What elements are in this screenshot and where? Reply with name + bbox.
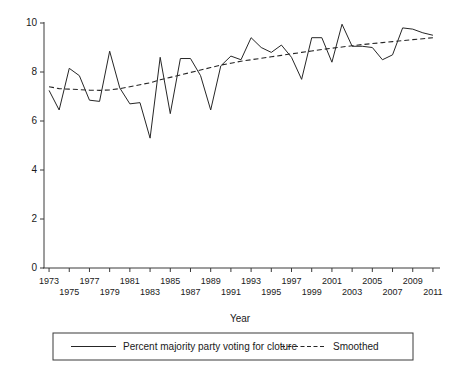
x-tick-label: 1977 <box>79 276 99 286</box>
legend-label-cloture: Percent majority party voting for clotur… <box>123 341 297 352</box>
x-tick-label: 1999 <box>302 287 322 297</box>
x-tick-label: 2009 <box>403 276 423 286</box>
x-tick-label: 1979 <box>100 287 120 297</box>
x-tick-label: 1991 <box>221 287 241 297</box>
x-tick-label: 2003 <box>342 287 362 297</box>
y-tick-label: 8 <box>31 66 37 77</box>
x-tick-label: 2005 <box>362 276 382 286</box>
x-tick-label: 1973 <box>39 276 59 286</box>
x-tick-label: 2001 <box>322 276 342 286</box>
y-tick-label: 4 <box>31 164 37 175</box>
y-tick-label: 2 <box>31 213 37 224</box>
x-tick-label: 2007 <box>383 287 403 297</box>
x-tick-label: 1989 <box>201 276 221 286</box>
x-tick-label: 1981 <box>120 276 140 286</box>
y-tick-label: 10 <box>26 17 38 28</box>
x-tick-label: 1985 <box>160 276 180 286</box>
x-tick-label: 1983 <box>140 287 160 297</box>
x-tick-label: 2011 <box>423 287 442 297</box>
chart-figure: 0246810 19731975197719791981198319851987… <box>0 0 466 372</box>
y-tick-label: 6 <box>31 115 37 126</box>
line-chart: 0246810 19731975197719791981198319851987… <box>0 0 466 372</box>
chart-legend: Percent majority party voting for clotur… <box>53 333 413 360</box>
x-tick-label: 1993 <box>241 276 261 286</box>
x-tick-label: 1997 <box>281 276 301 286</box>
x-axis-title: Year <box>230 313 251 324</box>
x-tick-label: 1975 <box>59 287 79 297</box>
series-line-cloture <box>49 24 433 138</box>
x-tick-label: 1995 <box>261 287 281 297</box>
data-series-group <box>49 24 433 138</box>
y-tick-label: 0 <box>31 262 37 273</box>
legend-label-smoothed: Smoothed <box>333 341 379 352</box>
x-tick-label: 1987 <box>180 287 200 297</box>
y-axis: 0246810 <box>26 17 44 273</box>
x-axis: 1973197519771979198119831985198719891991… <box>39 268 443 297</box>
